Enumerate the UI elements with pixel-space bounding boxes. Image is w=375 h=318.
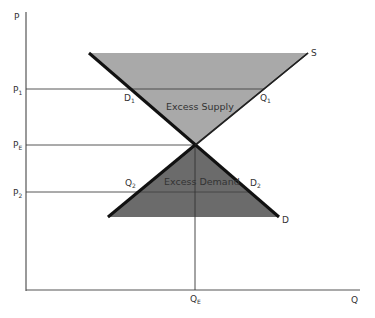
q2-label: Q2 [125,178,136,189]
supply-curve-label: S [311,48,317,58]
demand-curve-label: D [282,215,289,225]
p2-label: P2 [13,188,22,199]
x-axis-label: Q [351,295,358,305]
supply-demand-diagram: P Q P1 PE P2 QE S D D1 Q1 Q2 D2 Excess S… [0,0,375,318]
qe-label: QE [190,294,201,305]
pe-label: PE [13,140,22,151]
excess-demand-label: Excess Demand [164,176,240,187]
excess-supply-label: Excess Supply [166,101,234,112]
q1-label: Q1 [260,93,271,104]
excess-supply-region [89,53,308,145]
y-axis-label: P [14,12,20,22]
p1-label: P1 [13,85,22,96]
d1-label: D1 [124,93,135,104]
d2-label: D2 [250,178,261,189]
